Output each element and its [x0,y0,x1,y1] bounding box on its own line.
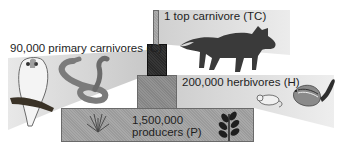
fox-icon [178,20,280,76]
top-carnivore-bar [153,10,159,45]
owl-icon [8,56,58,128]
chipmunk-icon [290,76,338,110]
mouse-icon [255,92,285,108]
snake-icon [55,55,115,105]
producers-label-line2: producers (P) [132,126,202,139]
primary-carnivores-label: 90,000 primary carnivores (C) [10,42,162,55]
grass-icon [86,112,110,134]
herbivores-label: 200,000 herbivores (H) [182,76,300,89]
leafy-plant-icon [217,110,241,142]
herbivores-bar [137,75,177,109]
